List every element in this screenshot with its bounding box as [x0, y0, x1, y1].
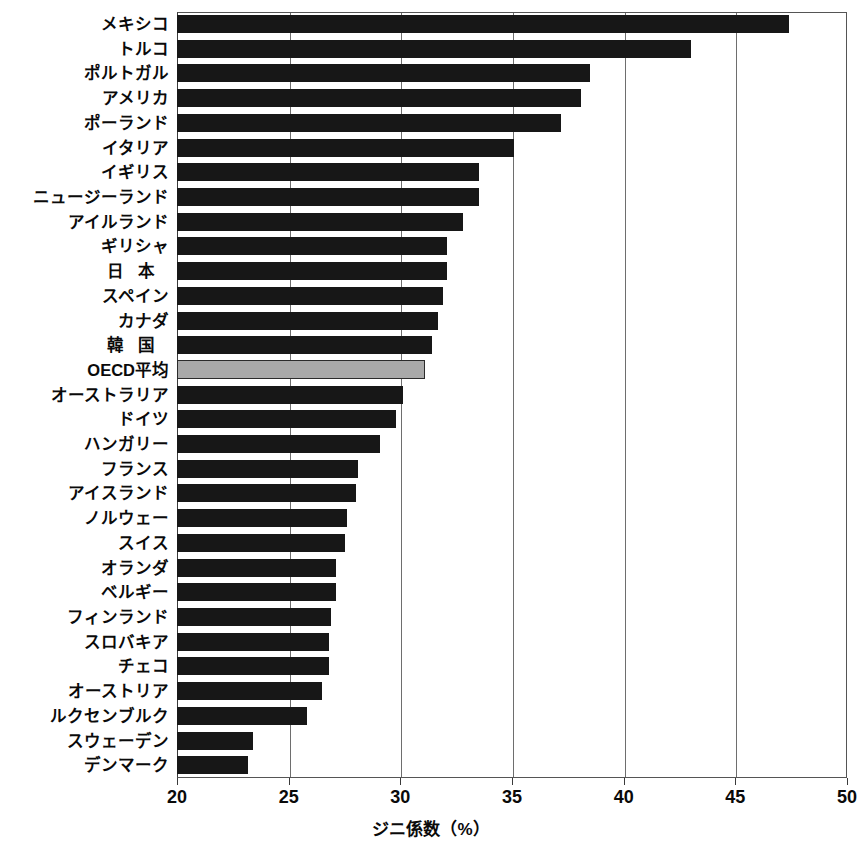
bar-row [177, 12, 847, 37]
x-axis-tick [624, 778, 625, 785]
x-axis-tick-label: 25 [279, 787, 299, 808]
bars-container [177, 12, 847, 778]
category-label: アイルランド [68, 210, 169, 235]
category-label: フィンランド [67, 605, 169, 630]
bar-row [177, 605, 847, 630]
bar-row [177, 580, 847, 605]
category-label: イギリス [101, 160, 169, 185]
bar-row [177, 679, 847, 704]
category-label: カナダ [118, 309, 169, 334]
bar-row [177, 61, 847, 86]
bar [177, 608, 331, 626]
bar [177, 89, 581, 107]
bar [177, 188, 479, 206]
bar [177, 262, 447, 280]
bar-row [177, 481, 847, 506]
bar [177, 657, 329, 675]
bar-row [177, 630, 847, 655]
category-label: スイス [118, 531, 169, 556]
bar [177, 732, 253, 750]
bar [177, 336, 432, 354]
gini-coefficient-bar-chart: メキシコトルコポルトガルアメリカポーランドイタリアイギリスニュージーランドアイル… [0, 0, 862, 847]
x-axis-tick [847, 778, 848, 785]
category-label: イタリア [102, 136, 169, 161]
bar [177, 64, 590, 82]
category-label: オランダ [101, 556, 169, 581]
bar-row [177, 556, 847, 581]
bar-row [177, 704, 847, 729]
category-label: アイスランド [68, 481, 169, 506]
category-label: ポーランド [84, 111, 169, 136]
bar-row [177, 37, 847, 62]
category-label: デンマーク [84, 753, 169, 778]
x-axis-tick-label: 40 [614, 787, 634, 808]
bar-row [177, 185, 847, 210]
bar-row [177, 210, 847, 235]
x-axis-tick-label: 20 [167, 787, 187, 808]
category-label: ベルギー [101, 580, 169, 605]
bar [177, 360, 425, 379]
bar-row [177, 383, 847, 408]
bar-row [177, 136, 847, 161]
category-label: ドイツ [118, 407, 169, 432]
bar [177, 756, 248, 774]
category-label: ギリシャ [101, 234, 169, 259]
category-axis-labels: メキシコトルコポルトガルアメリカポーランドイタリアイギリスニュージーランドアイル… [0, 12, 173, 778]
bar-row [177, 432, 847, 457]
bar [177, 534, 345, 552]
bar [177, 484, 356, 502]
x-axis-title: ジニ係数（%） [0, 815, 862, 840]
bar [177, 114, 561, 132]
bar-row [177, 160, 847, 185]
bar [177, 583, 336, 601]
category-label: ルクセンブルク [50, 704, 169, 729]
bar [177, 213, 463, 231]
bar [177, 559, 336, 577]
bar [177, 435, 380, 453]
category-label: 日本 [93, 259, 169, 284]
bar [177, 633, 329, 651]
bar [177, 509, 347, 527]
bar-row [177, 309, 847, 334]
category-label: フランス [101, 457, 169, 482]
x-axis-tick-label: 30 [390, 787, 410, 808]
bar-row [177, 111, 847, 136]
bar [177, 386, 403, 404]
bar-row [177, 358, 847, 383]
bar-row [177, 234, 847, 259]
bar-row [177, 729, 847, 754]
category-label: アメリカ [102, 86, 169, 111]
bar [177, 707, 307, 725]
category-label: ノルウェー [84, 506, 169, 531]
bar [177, 682, 322, 700]
category-label: メキシコ [101, 12, 169, 37]
bar-row [177, 407, 847, 432]
category-label: 韓国 [93, 333, 169, 358]
category-label: ハンガリー [84, 432, 169, 457]
bar-row [177, 86, 847, 111]
x-axis-tick [735, 778, 736, 785]
x-axis-tick-label: 35 [502, 787, 522, 808]
category-label: スロバキア [84, 630, 169, 655]
x-axis-tick-label: 50 [837, 787, 857, 808]
category-label: トルコ [118, 37, 169, 62]
bar [177, 312, 438, 330]
category-label: オーストラリア [51, 383, 169, 408]
category-label: チェコ [118, 654, 169, 679]
x-axis-tick [289, 778, 290, 785]
category-label: ニュージーランド [33, 185, 169, 210]
bar-row [177, 333, 847, 358]
bar-row [177, 506, 847, 531]
bar-row [177, 531, 847, 556]
bar [177, 15, 789, 33]
bar [177, 40, 691, 58]
bar-row [177, 259, 847, 284]
bar [177, 139, 514, 157]
bar [177, 237, 447, 255]
category-label: スウェーデン [67, 729, 169, 754]
bar-row [177, 284, 847, 309]
x-axis-tick [400, 778, 401, 785]
bar [177, 460, 358, 478]
x-axis-tick-label: 45 [725, 787, 745, 808]
bar-row [177, 753, 847, 778]
